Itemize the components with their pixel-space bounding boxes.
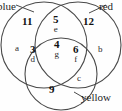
edge-letter-bottom-right: c [77, 74, 81, 83]
edge-letter-right: b [98, 45, 103, 54]
region-count-yellow-only: 9 [49, 84, 55, 95]
region-count-blue-only: 11 [22, 16, 32, 27]
region-letter-blue-red: e [54, 25, 58, 34]
edge-letter-left: a [15, 44, 19, 53]
region-letter-blue-yellow: d [31, 55, 36, 64]
region-count-red-only: 12 [83, 16, 94, 27]
region-red-yellow: 6 f [73, 44, 79, 64]
region-letter-blue-red-yellow: g [55, 50, 60, 59]
region-blue-red-yellow: 4 g [54, 39, 60, 59]
venn-diagram: blue red yellow 11 12 9 5 e 3 d 6 f 4 g … [0, 0, 122, 111]
region-blue-yellow: 3 d [30, 44, 36, 64]
region-letter-red-yellow: f [74, 55, 77, 64]
region-blue-red: 5 e [53, 14, 59, 34]
set-label-blue: blue [0, 1, 16, 12]
set-label-red: red [99, 1, 113, 12]
set-label-yellow: yellow [81, 92, 111, 103]
